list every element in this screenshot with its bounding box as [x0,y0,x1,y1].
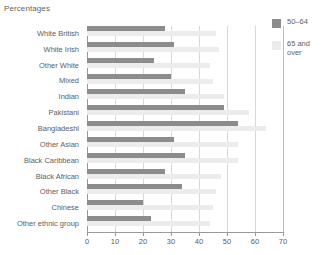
bar-age-65-over [87,79,213,84]
tick-mark-70 [283,233,284,236]
tick-label-20: 20 [139,237,147,246]
tick-mark-20 [143,233,144,236]
legend-item[interactable]: 50–64 [272,18,323,30]
category-label: Black African [36,172,79,181]
category-label: Indian [59,92,79,101]
bar-group [87,42,283,58]
category-label: Bangladeshi [38,124,79,133]
tick-mark-10 [115,233,116,236]
category-label: Pakistani [49,108,79,117]
legend-label: 50–64 [287,18,323,27]
bar-age-65-over [87,189,216,194]
bar-age-65-over [87,110,249,115]
bar-group [87,105,283,121]
bar-age-65-over [87,94,224,99]
chart-legend: 50–6465 and over [272,18,323,67]
bar-age-65-over [87,47,219,52]
bar-group [87,26,283,42]
bar-group [87,74,283,90]
bar-age-65-over [87,126,266,131]
tick-label-70: 70 [279,237,287,246]
bar-group [87,58,283,74]
bar-age-65-over [87,221,210,226]
tick-label-60: 60 [251,237,259,246]
bar-group [87,121,283,137]
bar-group [87,184,283,200]
category-label: Mixed [59,76,79,85]
tick-mark-50 [227,233,228,236]
bar-group [87,137,283,153]
tick-mark-40 [199,233,200,236]
tick-label-10: 10 [111,237,119,246]
chart-title: Percentages [4,4,50,13]
bar-group [87,153,283,169]
category-label: Other Asian [40,140,79,149]
bar-group [87,200,283,216]
tick-mark-0 [87,233,88,236]
tick-label-30: 30 [167,237,175,246]
x-axis-ticks: 010203040506070 [87,233,283,251]
bar-group [87,169,283,185]
bar-rows [87,26,283,232]
tick-mark-60 [255,233,256,236]
legend-swatch-icon [272,19,281,28]
category-axis-labels: White BritishWhite IrishOther WhiteMixed… [0,26,83,232]
category-label: White Irish [44,45,79,54]
legend-label: 65 and over [287,40,323,57]
legend-item[interactable]: 65 and over [272,40,323,57]
category-label: Other White [39,61,79,70]
category-label: White British [37,29,79,38]
tick-mark-30 [171,233,172,236]
category-label: Other ethnic group [17,219,79,228]
legend-swatch-icon [272,41,281,50]
bar-age-65-over [87,174,221,179]
tick-label-50: 50 [223,237,231,246]
category-label: Black Caribbean [24,156,79,165]
plot-area [87,26,283,232]
tick-label-40: 40 [195,237,203,246]
bar-age-65-over [87,158,238,163]
bar-age-65-over [87,31,216,36]
bar-group [87,216,283,232]
bar-age-65-over [87,63,210,68]
category-label: Chinese [51,203,79,212]
bar-group [87,89,283,105]
bar-age-65-over [87,142,238,147]
bar-age-65-over [87,205,213,210]
category-label: Other Black [40,187,79,196]
bar-chart: Percentages White BritishWhite IrishOthe… [0,0,323,255]
tick-label-0: 0 [85,237,89,246]
